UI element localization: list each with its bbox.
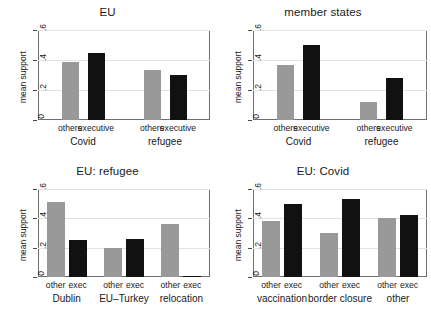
y-tick-label: .6 xyxy=(253,24,263,31)
bar xyxy=(183,276,201,277)
bar xyxy=(360,102,377,120)
y-tick-label: .4 xyxy=(253,54,263,61)
y-tick-label: .2 xyxy=(38,242,48,249)
chart-title: member states xyxy=(215,6,431,18)
chart-panel-eu: EUmean supportothersexecutiveCovidothers… xyxy=(0,0,215,160)
figure-panel-grid: EUmean supportothersexecutiveCovidothers… xyxy=(0,0,431,317)
y-tick xyxy=(248,60,252,61)
group-label: vaccination xyxy=(257,293,307,304)
group-label: border closure xyxy=(308,293,372,304)
bar xyxy=(303,45,320,120)
chart-title: EU xyxy=(0,6,215,18)
category-label: other xyxy=(161,280,181,290)
chart-panel-eu-refugee: EU: refugeemean supportotherexecDublinot… xyxy=(0,160,215,317)
bar xyxy=(400,215,418,277)
y-tick-label: .4 xyxy=(253,212,263,219)
bar xyxy=(161,224,179,277)
category-label: exec xyxy=(126,280,144,290)
category-label: exec xyxy=(400,280,418,290)
bar xyxy=(170,75,187,120)
y-tick xyxy=(248,30,252,31)
y-tick xyxy=(33,189,37,190)
bar xyxy=(262,221,280,277)
chart-panel-member-states: member statesmean supportothersexecutive… xyxy=(215,0,431,160)
bar xyxy=(342,199,360,277)
y-tick xyxy=(33,218,37,219)
y-tick-label: .4 xyxy=(38,54,48,61)
category-label: executive xyxy=(160,123,196,133)
category-label: other xyxy=(261,280,281,290)
bar xyxy=(144,70,161,120)
bar-series xyxy=(253,189,427,277)
y-tick xyxy=(33,248,37,249)
plot-area xyxy=(253,189,427,277)
y-tick xyxy=(248,120,252,121)
y-tick xyxy=(248,248,252,249)
bar xyxy=(47,202,65,277)
y-tick xyxy=(33,30,37,31)
y-tick xyxy=(33,120,37,121)
group-label: EU–Turkey xyxy=(99,293,149,304)
category-label: executive xyxy=(376,123,412,133)
bar xyxy=(104,248,122,277)
bar xyxy=(88,53,105,121)
y-tick-label: .2 xyxy=(253,84,263,91)
y-tick xyxy=(33,90,37,91)
y-tick-label: 0 xyxy=(251,114,261,119)
group-label: relocation xyxy=(160,293,203,304)
y-tick xyxy=(248,218,252,219)
y-axis-label: mean support xyxy=(233,209,243,261)
bar xyxy=(126,239,144,277)
category-label: exec xyxy=(342,280,360,290)
y-tick xyxy=(33,60,37,61)
category-label: other xyxy=(319,280,339,290)
y-tick xyxy=(248,189,252,190)
y-tick-label: 0 xyxy=(36,271,46,276)
y-axis-label: mean support xyxy=(18,209,28,261)
bar-series xyxy=(253,30,427,120)
y-tick-label: .2 xyxy=(38,84,48,91)
y-tick-label: .2 xyxy=(253,242,263,249)
category-label: exec xyxy=(69,280,87,290)
bar-series xyxy=(38,189,210,277)
y-tick-label: .6 xyxy=(38,183,48,190)
group-label: Covid xyxy=(286,136,312,147)
bar xyxy=(386,78,403,120)
group-label: refugee xyxy=(365,136,399,147)
y-tick xyxy=(33,277,37,278)
bar-series xyxy=(38,30,210,120)
chart-title: EU: refugee xyxy=(0,165,215,177)
category-label: exec xyxy=(183,280,201,290)
y-tick-label: .6 xyxy=(38,24,48,31)
y-tick-label: 0 xyxy=(36,114,46,119)
plot-area xyxy=(38,189,210,277)
category-label: executive xyxy=(293,123,329,133)
category-label: executive xyxy=(78,123,114,133)
y-axis-label: mean support xyxy=(18,51,28,103)
category-label: exec xyxy=(284,280,302,290)
group-label: Covid xyxy=(70,136,96,147)
chart-title: EU: Covid xyxy=(215,165,431,177)
chart-panel-eu-covid: EU: Covidmean supportotherexecvaccinatio… xyxy=(215,160,431,317)
bar xyxy=(277,65,294,121)
group-label: refugee xyxy=(148,136,182,147)
category-label: other xyxy=(377,280,397,290)
plot-area xyxy=(253,30,427,120)
bar xyxy=(69,240,87,277)
plot-area xyxy=(38,30,210,120)
y-tick-label: .6 xyxy=(253,183,263,190)
group-label: Dublin xyxy=(52,293,80,304)
bar xyxy=(284,204,302,277)
bar xyxy=(378,218,396,277)
category-label: other xyxy=(46,280,66,290)
category-label: other xyxy=(103,280,123,290)
group-label: other xyxy=(387,293,410,304)
y-tick-label: 0 xyxy=(251,271,261,276)
y-axis-label: mean support xyxy=(233,51,243,103)
y-tick-label: .4 xyxy=(38,212,48,219)
y-tick xyxy=(248,277,252,278)
y-tick xyxy=(248,90,252,91)
bar xyxy=(62,62,79,120)
bar xyxy=(320,233,338,277)
